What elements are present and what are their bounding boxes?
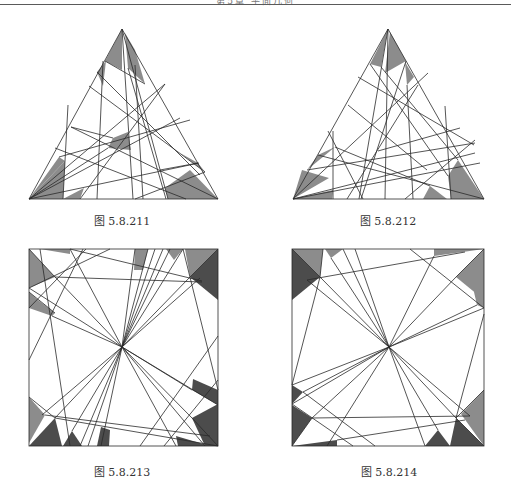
figure-5-8-212: 图 5.8.212	[255, 0, 511, 240]
triangle-diagram-212	[255, 0, 511, 240]
figure-5-8-211: 图 5.8.211	[0, 0, 255, 240]
square-diagram-213	[0, 240, 255, 499]
figure-5-8-214: 图 5.8.214	[255, 240, 511, 499]
triangle-diagram-211	[0, 0, 255, 240]
figure-caption-214: 图 5.8.214	[349, 463, 429, 479]
square-diagram-214	[255, 240, 511, 499]
figure-caption-212: 图 5.8.212	[348, 212, 428, 228]
figure-caption-211: 图 5.8.211	[82, 212, 162, 228]
figure-5-8-213: 图 5.8.213	[0, 240, 255, 499]
figure-caption-213: 图 5.8.213	[82, 463, 162, 479]
